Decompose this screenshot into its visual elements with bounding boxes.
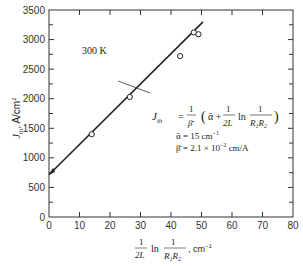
x-tick-label: 20 — [104, 220, 116, 231]
x-tick-label: 30 — [135, 220, 147, 231]
svg-text:1: 1 — [171, 237, 176, 247]
y-tick-label: 1500 — [23, 123, 46, 134]
y-tick-label: 3000 — [23, 34, 46, 45]
data-point — [178, 54, 183, 59]
plot-border — [49, 10, 293, 217]
y-tick-label: 3500 — [23, 5, 46, 16]
y-tick-label: 0 — [39, 212, 45, 223]
eq-beta: β̄ — [187, 118, 195, 128]
eq-2L: 2L — [223, 118, 233, 128]
svg-text:, cm−1: , cm−1 — [188, 243, 213, 254]
data-point — [196, 32, 201, 37]
x-tick-label: 70 — [257, 220, 269, 231]
data-point — [127, 94, 132, 99]
temperature-label: 300 K — [82, 45, 108, 56]
x-tick-label: 50 — [196, 220, 208, 231]
eq-ln: ln — [238, 111, 246, 122]
svg-text:R1R2: R1R2 — [163, 251, 181, 262]
svg-text:2L: 2L — [135, 250, 145, 260]
chart: 0102030405060708005001000150020002500300… — [0, 0, 303, 266]
svg-text:ln: ln — [151, 243, 159, 254]
ticks — [49, 10, 293, 217]
y-tick-label: 2000 — [23, 93, 46, 104]
alpha-value: ᾱ = 15 cm−1 — [176, 130, 219, 141]
x-tick-label: 40 — [165, 220, 177, 231]
x-tick-label: 10 — [74, 220, 86, 231]
svg-text:1: 1 — [139, 237, 144, 247]
eq-frac2-num: 1 — [226, 104, 231, 114]
x-tick-label: 60 — [226, 220, 238, 231]
x-tick-label: 80 — [287, 220, 299, 231]
eq-equals: = — [178, 111, 184, 122]
eq-paren-close: ) — [274, 109, 279, 125]
data-point — [89, 132, 94, 137]
x-axis-label: 1 2L ln 1 R1R2 , cm−1 — [135, 237, 213, 262]
beta-value: β̄ = 2.1 × 10−2 cm/A — [176, 142, 249, 153]
x-tick-label: 0 — [46, 220, 52, 231]
eq-frac1-num: 1 — [189, 104, 194, 114]
y-tick-label: 2500 — [23, 64, 46, 75]
eq-alpha: ᾱ + — [208, 111, 222, 122]
equation: Jth = 1 β̄ ( ᾱ + 1 2L ln 1 R1R2 ) ᾱ = 15… — [152, 104, 279, 153]
eq-paren-open: ( — [201, 109, 206, 125]
plot-frame — [49, 10, 293, 217]
y-tick-label: 500 — [28, 182, 45, 193]
eq-R1R2: R1R2 — [249, 118, 267, 129]
y-tick-label: 1000 — [23, 152, 46, 163]
eq-frac3-num: 1 — [258, 104, 263, 114]
eq-lhs: Jth — [152, 110, 163, 125]
